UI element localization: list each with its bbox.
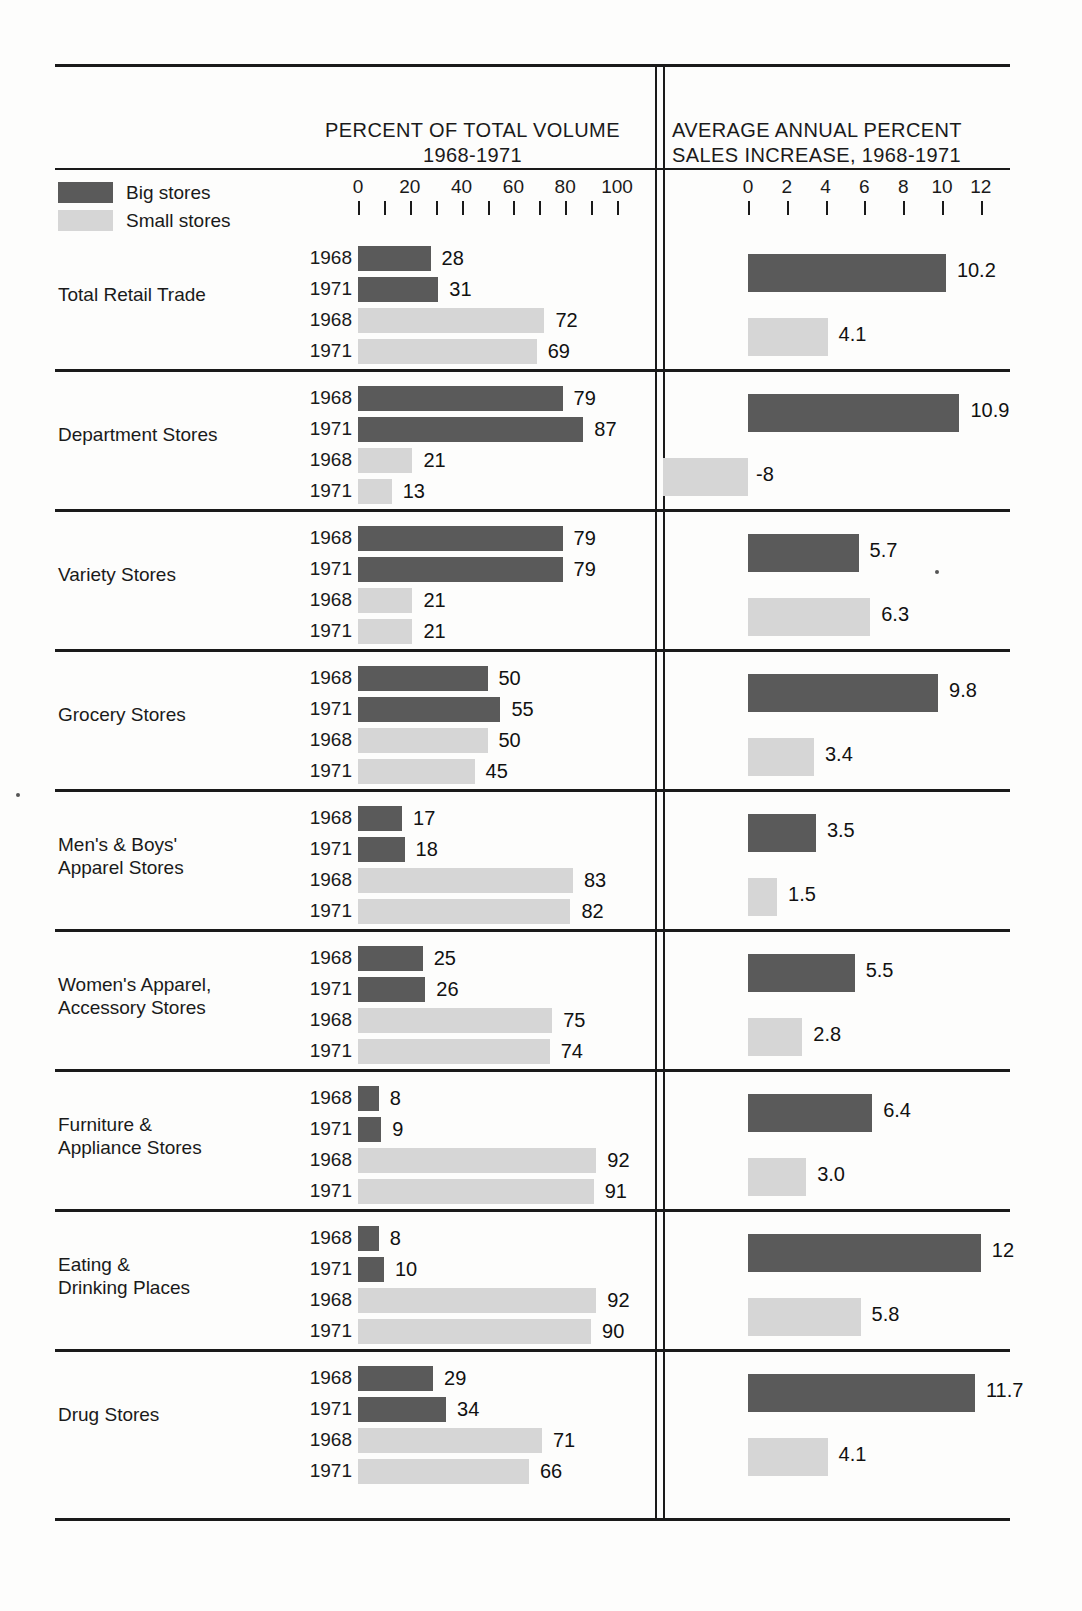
left-bar-row: 196872 (358, 305, 658, 335)
axis-tick-label: 0 (353, 176, 364, 198)
right-bar-row: 3.4 (748, 735, 1028, 765)
left-bar-row: 197187 (358, 414, 658, 444)
right-bar-row: 4.1 (748, 315, 1028, 345)
bar-big (358, 697, 500, 722)
bar-value-label: 79 (574, 523, 596, 553)
bar-value-label: 71 (553, 1425, 575, 1455)
bar-big (358, 1366, 433, 1391)
group-label: Grocery Stores (58, 703, 298, 726)
axis-tick (436, 201, 438, 215)
left-bar-row: 197191 (358, 1176, 658, 1206)
bar-big (748, 1094, 872, 1132)
bar-value-label: 83 (584, 865, 606, 895)
bar-year-label: 1971 (310, 336, 352, 366)
axis-tick (565, 201, 567, 215)
bar-year-label: 1968 (310, 803, 352, 833)
bar-year-label: 1968 (310, 943, 352, 973)
bar-value-label: 92 (607, 1145, 629, 1175)
bar-big (358, 386, 563, 411)
bar-value-label: 45 (486, 756, 508, 786)
bar-value-label: 91 (605, 1176, 627, 1206)
bar-big (358, 946, 423, 971)
bar-year-label: 1971 (310, 554, 352, 584)
axis-tick-label: 10 (931, 176, 952, 198)
bar-value-label: 69 (548, 336, 570, 366)
right-bar-row: 9.8 (748, 671, 1028, 701)
axis-tick-label: 100 (601, 176, 633, 198)
bar-year-label: 1971 (310, 1394, 352, 1424)
bar-small (748, 1018, 802, 1056)
left-bar-row: 197182 (358, 896, 658, 926)
left-bar-row: 196871 (358, 1425, 658, 1455)
bar-small (358, 899, 570, 924)
bar-value-label: 21 (423, 616, 445, 646)
bar-year-label: 1968 (310, 523, 352, 553)
bar-small (358, 619, 412, 644)
chart-group: Grocery Stores1968501971551968501971459.… (55, 649, 1010, 789)
bar-value-label: 26 (436, 974, 458, 1004)
group-label-line1: Department Stores (58, 423, 298, 446)
bar-small (358, 1459, 529, 1484)
bar-year-label: 1968 (310, 585, 352, 615)
top-rule (55, 64, 1010, 67)
bar-year-label: 1971 (310, 414, 352, 444)
bar-value-label: 6.3 (881, 595, 909, 633)
right-bar-row: 3.0 (748, 1155, 1028, 1185)
group-separator (55, 1349, 1010, 1352)
axis-tick-label: 20 (399, 176, 420, 198)
bar-value-label: 90 (602, 1316, 624, 1346)
group-separator (55, 929, 1010, 932)
bar-big (358, 1086, 379, 1111)
bar-value-label: 79 (574, 554, 596, 584)
bar-year-label: 1971 (310, 616, 352, 646)
group-label: Furniture &Appliance Stores (58, 1113, 298, 1159)
stray-speck-2 (16, 793, 20, 797)
right-bar-row: 1.5 (748, 875, 1028, 905)
right-bar-row: 11.7 (748, 1371, 1028, 1401)
legend-item-big-stores: Big stores (58, 180, 231, 205)
bar-small (358, 1319, 591, 1344)
bar-big (358, 1257, 384, 1282)
left-axis: 020406080100 (358, 176, 618, 216)
left-bar-row: 197134 (358, 1394, 658, 1424)
left-bar-row: 196879 (358, 383, 658, 413)
left-bar-row: 196883 (358, 865, 658, 895)
bar-value-label: 82 (581, 896, 603, 926)
axis-tick (942, 201, 944, 215)
axis-tick (981, 201, 983, 215)
bar-value-label: 50 (499, 725, 521, 755)
axis-tick (591, 201, 593, 215)
left-bar-row: 197131 (358, 274, 658, 304)
bar-value-label: 5.5 (866, 951, 894, 989)
left-bar-row: 196825 (358, 943, 658, 973)
bar-value-label: 79 (574, 383, 596, 413)
bar-value-label: 21 (423, 585, 445, 615)
group-label-line1: Grocery Stores (58, 703, 298, 726)
left-bar-row: 197118 (358, 834, 658, 864)
bar-value-label: 18 (416, 834, 438, 864)
left-bar-row: 197155 (358, 694, 658, 724)
bar-small (358, 339, 537, 364)
left-bar-row: 197145 (358, 756, 658, 786)
bar-value-label: 66 (540, 1456, 562, 1486)
bar-big (748, 674, 938, 712)
header-rule (55, 168, 1010, 170)
left-bar-row: 196850 (358, 663, 658, 693)
chart-group: Drug Stores19682919713419687119716611.74… (55, 1349, 1010, 1489)
axis-tick (903, 201, 905, 215)
bar-value-label: 17 (413, 803, 435, 833)
bar-big (358, 246, 431, 271)
bar-value-label: 72 (555, 305, 577, 335)
bar-year-label: 1968 (310, 383, 352, 413)
bar-value-label: 8 (390, 1223, 401, 1253)
bar-small (748, 598, 870, 636)
chart-group: Women's Apparel,Accessory Stores19682519… (55, 929, 1010, 1069)
group-label: Men's & Boys'Apparel Stores (58, 833, 298, 879)
bar-year-label: 1971 (310, 974, 352, 1004)
bar-value-label: 5.8 (872, 1295, 900, 1333)
bar-big (748, 1374, 975, 1412)
chart-group: Variety Stores1968791971791968211971215.… (55, 509, 1010, 649)
bar-year-label: 1968 (310, 725, 352, 755)
axis-tick-label: 80 (555, 176, 576, 198)
right-axis: 024681012 (748, 176, 981, 216)
